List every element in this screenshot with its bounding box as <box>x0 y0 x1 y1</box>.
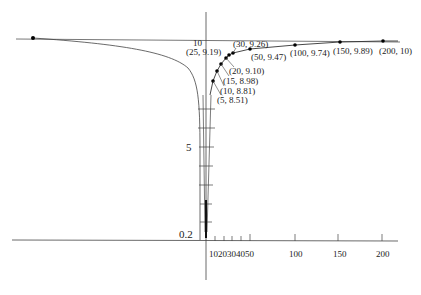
point-label-5: (5, 8.51) <box>217 95 248 105</box>
left-branch-curve <box>33 38 200 240</box>
data-point-far-left <box>31 36 35 40</box>
point-label-20: (20, 9.10) <box>229 66 264 76</box>
data-point-150 <box>338 40 342 44</box>
x-axis <box>12 240 398 241</box>
point-label-25: (25, 9.19) <box>186 47 221 57</box>
x-tick-50: 50 <box>245 249 255 259</box>
point-label-15: (15, 8.98) <box>223 76 258 86</box>
saturation-curve-diagram: 10 (25, 9.19) (30, 9.26) (50, 9.47) (100… <box>0 0 421 295</box>
point-label-150: (150, 9.89) <box>333 46 373 56</box>
chart-stage: 10 (25, 9.19) (30, 9.26) (50, 9.47) (100… <box>0 0 421 295</box>
funnel-line-left <box>203 95 205 232</box>
point-label-30: (30, 9.26) <box>233 39 268 49</box>
data-points <box>31 36 385 83</box>
y-label-0-2: 0.2 <box>179 228 193 240</box>
x-tick-100: 100 <box>289 249 303 259</box>
x-axis-ticks <box>215 234 382 241</box>
point-label-50: (50, 9.47) <box>251 52 286 62</box>
point-label-100: (100, 9.74) <box>290 48 330 58</box>
funnel-line-right <box>207 95 211 232</box>
bottom-spike <box>205 200 207 238</box>
x-tick-200: 200 <box>376 249 390 259</box>
point-label-200: (200, 10) <box>379 46 412 56</box>
data-point-100 <box>293 43 297 47</box>
x-tick-150: 150 <box>333 249 347 259</box>
data-point-25 <box>227 53 231 57</box>
y-label-5: 5 <box>186 141 192 153</box>
data-point-200 <box>381 39 385 43</box>
